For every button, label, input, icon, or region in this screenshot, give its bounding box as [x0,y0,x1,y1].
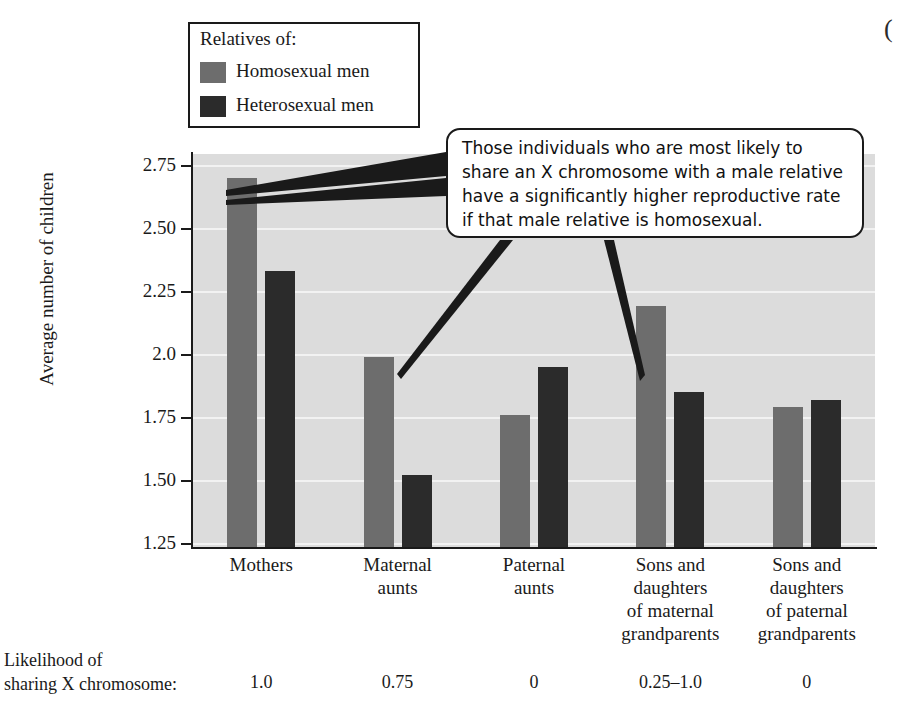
y-axis-tick-labels: 1.251.501.752.02.252.502.75 [104,0,176,709]
x-axis-label: Paternalaunts [466,553,602,599]
legend-label-heterosexual: Heterosexual men [236,92,374,118]
bar [364,357,394,547]
legend-title: Relatives of: [200,28,297,50]
x-axis-label-line: Paternal [466,553,602,576]
likelihood-label: Likelihood of sharing X chromosome: [4,648,199,696]
homosexual-swatch-icon [200,62,226,83]
y-axis-tick [181,291,192,293]
y-axis-title: Average number of children [36,149,58,409]
likelihood-value: 0 [739,672,875,693]
bar [636,306,666,547]
legend: Relatives of: Homosexual men Heterosexua… [188,22,420,128]
bar [402,475,432,547]
likelihood-row: Likelihood of sharing X chromosome: 1.00… [0,648,920,706]
y-axis-tick-label: 2.50 [106,218,176,237]
x-axis-label-line: of maternal [602,599,738,622]
x-axis-label-line: aunts [466,576,602,599]
x-axis-label-line: grandparents [739,622,875,645]
y-axis-tick-label: 1.50 [106,470,176,489]
x-axis-label-line: of paternal [739,599,875,622]
x-axis-label-line: Maternal [329,553,465,576]
legend-label-homosexual: Homosexual men [236,58,370,84]
bar [538,367,568,547]
x-axis-label-line: grandparents [602,622,738,645]
bar [500,415,530,547]
callout-line-1: Those individuals who are most likely to [462,136,852,160]
callout-line-4: if that male relative is homosexual. [462,208,852,232]
y-axis-tick-label: 2.0 [106,344,176,363]
y-axis-tick [181,543,192,545]
x-axis-label-line: Sons and [739,553,875,576]
corner-paren-artifact: ( [884,14,893,44]
likelihood-value: 0.75 [329,672,465,693]
x-axis-label: Maternalaunts [329,553,465,599]
bar [773,407,803,547]
likelihood-value: 0.25–1.0 [602,672,738,693]
x-axis-labels: MothersMaternalauntsPaternalauntsSons an… [193,553,875,643]
x-axis-label-line: daughters [602,576,738,599]
gridline [193,354,875,356]
callout-line-2: share an X chromosome with a male relati… [462,160,852,184]
x-axis-line [191,547,877,549]
x-axis-label: Mothers [193,553,329,576]
bar [674,392,704,547]
likelihood-label-line-2: sharing X chromosome: [4,672,199,696]
y-axis-tick-label: 2.75 [106,155,176,174]
x-axis-label: Sons anddaughtersof maternalgrandparents [602,553,738,645]
likelihood-label-line-1: Likelihood of [4,648,199,672]
x-axis-label-line: Sons and [602,553,738,576]
x-axis-label-line: aunts [329,576,465,599]
y-axis-line [191,152,193,549]
y-axis-tick [181,228,192,230]
chart-figure: 1.251.501.752.02.252.502.75 Average numb… [0,0,920,709]
y-axis-tick-label: 2.25 [106,281,176,300]
bar [227,178,257,547]
callout-text: Those individuals who are most likely to… [462,136,852,232]
heterosexual-swatch-icon [200,96,226,117]
callout-box: Those individuals who are most likely to… [446,128,864,238]
x-axis-label: Sons anddaughtersof paternalgrandparents [739,553,875,645]
y-axis-tick [181,417,192,419]
y-axis-tick-label: 1.75 [106,407,176,426]
x-axis-label-line: Mothers [193,553,329,576]
bar [265,271,295,547]
x-axis-label-line: daughters [739,576,875,599]
likelihood-value: 1.0 [193,672,329,693]
y-axis-tick-label: 1.25 [106,533,176,552]
y-axis-tick [181,480,192,482]
y-axis-tick [181,165,192,167]
bar [811,400,841,547]
y-axis-tick [181,354,192,356]
likelihood-value: 0 [466,672,602,693]
gridline [193,291,875,293]
callout-line-3: have a significantly higher reproductive… [462,184,852,208]
